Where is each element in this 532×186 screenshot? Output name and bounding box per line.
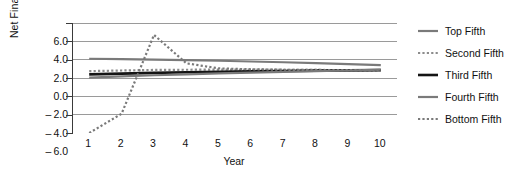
x-tick-label: 3: [140, 137, 166, 149]
x-tick-label: 5: [205, 137, 231, 149]
series-line: [89, 35, 381, 133]
legend-label: Second Fifth: [445, 47, 504, 59]
legend-line-swatch: [418, 47, 438, 59]
x-tick-label: 6: [237, 137, 263, 149]
legend-item[interactable]: Bottom Fifth: [418, 108, 532, 130]
legend-label: Bottom Fifth: [445, 113, 502, 125]
y-tick-label: – 4.0: [30, 128, 68, 138]
x-tick-label: 10: [367, 137, 393, 149]
x-tick-label: 4: [172, 137, 198, 149]
legend-item[interactable]: Fourth Fifth: [418, 86, 532, 108]
y-tick-label: 0.0: [30, 91, 68, 101]
legend-item[interactable]: Third Fifth: [418, 64, 532, 86]
legend-line-swatch: [418, 69, 438, 81]
plot-area: [72, 23, 396, 133]
y-tick-label: 4.0: [30, 54, 68, 64]
legend-line-swatch: [418, 113, 438, 125]
legend-item[interactable]: Top Fifth: [418, 20, 532, 42]
y-axis-tick-labels: 6.04.02.00.0– 2.0– 4.0– 6.0: [30, 23, 68, 133]
y-tick-label: 2.0: [30, 73, 68, 83]
y-tick-label: – 2.0: [30, 109, 68, 119]
plot-lines-svg: [73, 23, 397, 133]
legend-label: Third Fifth: [445, 69, 492, 81]
x-tick-label: 7: [270, 137, 296, 149]
y-tick-label: – 6.0: [30, 146, 68, 156]
x-tick-label: 9: [334, 137, 360, 149]
chart-legend: Top FifthSecond FifthThird FifthFourth F…: [418, 20, 532, 130]
legend-line-swatch: [418, 25, 438, 37]
x-tick-label: 2: [108, 137, 134, 149]
legend-line-swatch: [418, 91, 438, 103]
x-axis-title: Year: [72, 155, 396, 167]
chart-figure: Net Financial Leverage 6.04.02.00.0– 2.0…: [0, 0, 532, 186]
x-axis-tick-labels: 12345678910: [72, 137, 396, 153]
y-axis-title: Net Financial Leverage: [0, 0, 28, 56]
x-tick-label: 1: [75, 137, 101, 149]
x-tick-label: 8: [302, 137, 328, 149]
y-tick-label: 6.0: [30, 36, 68, 46]
legend-label: Fourth Fifth: [445, 91, 499, 103]
y-tick-mark: [66, 133, 73, 134]
legend-item[interactable]: Second Fifth: [418, 42, 532, 64]
legend-label: Top Fifth: [445, 25, 485, 37]
